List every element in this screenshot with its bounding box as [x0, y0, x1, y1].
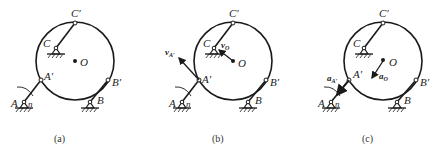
label-A: A — [10, 97, 18, 109]
label-n: n — [28, 99, 33, 109]
label-B-prime: B′ — [420, 76, 430, 88]
caption-b: (b) — [212, 133, 224, 145]
acceleration-A-prime-arrow — [337, 80, 349, 95]
link-CC-prime — [364, 23, 383, 48]
label-A: A — [317, 97, 325, 109]
label-B: B — [255, 94, 262, 106]
label-O: O — [80, 56, 88, 68]
joint-C-prime — [231, 21, 235, 25]
figure-a: C′ C O A′ B′ A B n (a) — [10, 7, 122, 145]
label-vA-prime: vA′ — [165, 47, 175, 58]
joint-C-prime — [73, 21, 77, 25]
label-C-prime: C′ — [71, 7, 81, 19]
velocity-A-prime-arrow — [179, 58, 199, 80]
label-O: O — [238, 57, 246, 69]
label-B: B — [404, 94, 411, 106]
label-C: C — [203, 37, 211, 49]
label-n: n — [186, 99, 191, 109]
caption-a: (a) — [54, 133, 65, 145]
center-O — [73, 59, 77, 63]
label-A-prime: A′ — [201, 73, 212, 85]
joint-B-prime — [106, 78, 110, 82]
label-aA-prime: aA′ — [327, 73, 338, 84]
label-n: n — [335, 99, 340, 109]
label-B-prime: B′ — [270, 76, 280, 88]
label-A-prime: A′ — [352, 68, 363, 80]
label-vO: vO — [221, 40, 230, 51]
figure-b: vA′ vO C′ C O A′ B′ A B n (b) — [165, 7, 280, 145]
link-CC-prime — [56, 23, 75, 48]
link-AA-prime — [24, 80, 41, 102]
label-B-prime: B′ — [112, 76, 122, 88]
label-C: C — [43, 37, 51, 49]
joint-B-prime — [264, 78, 268, 82]
label-C-prime: C′ — [379, 7, 389, 19]
label-C: C — [353, 37, 361, 49]
velocity-O-arrow — [219, 50, 233, 61]
label-A-prime: A′ — [43, 70, 54, 82]
joint-B-prime — [414, 78, 418, 82]
label-B: B — [97, 94, 104, 106]
joint-C-prime — [381, 21, 385, 25]
link-AA-prime — [182, 80, 199, 102]
joint-A-prime — [39, 78, 43, 82]
label-A: A — [168, 97, 176, 109]
figure-c: aA′ aO C′ C O A′ B′ A B n (c) — [317, 7, 430, 145]
label-O: O — [389, 56, 397, 68]
label-C-prime: C′ — [229, 7, 239, 19]
label-aO: aO — [379, 71, 389, 82]
caption-c: (c) — [362, 133, 373, 145]
